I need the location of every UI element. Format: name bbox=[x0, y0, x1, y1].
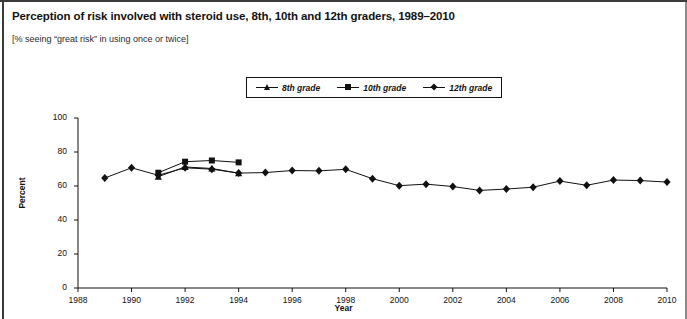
diamond-marker bbox=[422, 180, 429, 188]
x-tick-label: 2008 bbox=[593, 295, 633, 305]
diamond-marker bbox=[663, 178, 670, 186]
diamond-marker bbox=[342, 165, 349, 173]
x-tick-label: 1996 bbox=[272, 295, 312, 305]
diamond-marker bbox=[476, 186, 483, 194]
x-tick-label: 1992 bbox=[165, 295, 205, 305]
y-tick-label: 100 bbox=[41, 112, 67, 122]
y-tick-label: 60 bbox=[41, 180, 67, 190]
diamond-marker bbox=[208, 165, 215, 173]
x-tick-label: 1994 bbox=[219, 295, 259, 305]
series-12th-grade bbox=[101, 164, 670, 195]
figure-container: Perception of risk involved with steroid… bbox=[0, 0, 687, 319]
diamond-marker bbox=[315, 167, 322, 175]
diamond-marker bbox=[610, 176, 617, 184]
y-tick-label: 40 bbox=[41, 214, 67, 224]
diamond-marker bbox=[503, 185, 510, 193]
x-tick-label: 2006 bbox=[540, 295, 580, 305]
plot-area bbox=[0, 0, 687, 319]
x-tick-label: 1988 bbox=[58, 295, 98, 305]
x-tick-label: 2010 bbox=[647, 295, 687, 305]
diamond-marker bbox=[181, 164, 188, 172]
square-marker bbox=[182, 159, 188, 165]
x-tick-label: 1990 bbox=[112, 295, 152, 305]
x-tick-label: 1998 bbox=[326, 295, 366, 305]
diamond-marker bbox=[556, 177, 563, 185]
diamond-marker bbox=[289, 167, 296, 175]
diamond-marker bbox=[101, 174, 108, 182]
square-marker bbox=[209, 158, 215, 164]
y-tick-label: 20 bbox=[41, 248, 67, 258]
x-tick-label: 2004 bbox=[486, 295, 526, 305]
diamond-marker bbox=[583, 181, 590, 189]
y-axis-label: Percent bbox=[17, 163, 27, 223]
plot-svg bbox=[0, 0, 687, 319]
series-line bbox=[105, 168, 667, 191]
y-tick-label: 80 bbox=[41, 146, 67, 156]
diamond-marker bbox=[369, 175, 376, 183]
diamond-marker bbox=[449, 183, 456, 191]
diamond-marker bbox=[128, 164, 135, 172]
x-tick-label: 2002 bbox=[433, 295, 473, 305]
x-tick-label: 2000 bbox=[379, 295, 419, 305]
square-marker bbox=[236, 159, 242, 165]
diamond-marker bbox=[262, 169, 269, 177]
diamond-marker bbox=[396, 182, 403, 190]
diamond-marker bbox=[530, 183, 537, 191]
diamond-marker bbox=[637, 177, 644, 185]
y-tick-label: 0 bbox=[41, 282, 67, 292]
